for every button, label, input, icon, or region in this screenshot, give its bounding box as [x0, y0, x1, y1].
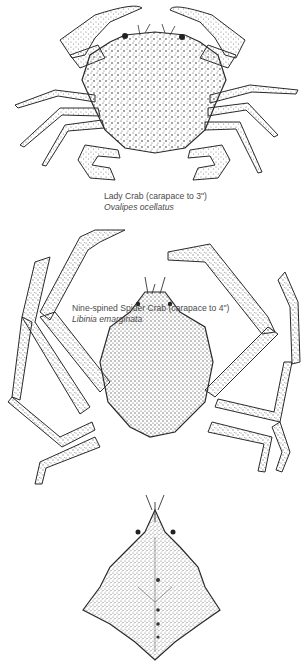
common-name: Lady Crab (carapace to 3") — [104, 191, 207, 202]
spider-crab-illustration — [0, 222, 307, 492]
spider-crab-icon — [0, 222, 307, 492]
spider-crab-carapace-illustration — [80, 492, 230, 666]
latin-name: Ovalipes ocellatus — [104, 202, 207, 213]
crab-icon — [0, 0, 307, 190]
lady-crab-illustration — [0, 0, 307, 190]
common-name: Nine-spined Spider Crab (carapace to 4") — [72, 303, 229, 314]
lady-crab-caption: Lady Crab (carapace to 3") Ovalipes ocel… — [104, 191, 207, 212]
latin-name: Libinia emarginata — [72, 314, 229, 325]
carapace-icon — [80, 492, 230, 666]
spider-crab-caption: Nine-spined Spider Crab (carapace to 4")… — [72, 303, 229, 324]
